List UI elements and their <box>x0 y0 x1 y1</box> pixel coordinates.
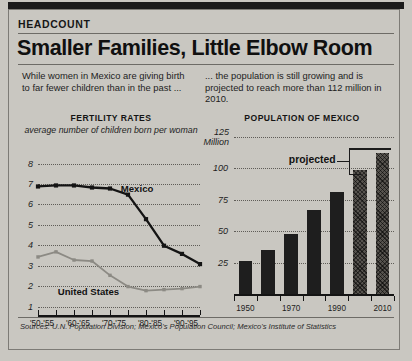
fertility-chart-title: FERTILITY RATES <box>16 113 206 123</box>
projected-bracket-top <box>349 148 392 149</box>
fertility-chart-subtitle: average number of children born per woma… <box>16 125 206 136</box>
x-axis-tick <box>371 296 372 301</box>
data-point <box>54 183 58 187</box>
x-axis-tick <box>146 310 147 315</box>
kicker-label: HEADCOUNT <box>18 18 90 30</box>
data-point <box>90 259 93 262</box>
y-axis-tick-label: 50 <box>200 226 228 236</box>
x-axis-tick <box>110 310 111 315</box>
population-chart-title: POPULATION OF MEXICO <box>204 113 400 123</box>
y-axis-tick-label: 125 Million <box>198 127 229 147</box>
data-point <box>180 251 184 255</box>
data-point <box>162 287 165 290</box>
x-axis-tick <box>348 296 349 301</box>
x-axis-tick-label: 1990 <box>328 304 346 313</box>
series-label-mexico: Mexico <box>121 183 154 194</box>
fertility-plot-area: 87654321MexicoUnited States'50-'55'60-'6… <box>16 136 206 313</box>
bar-projected <box>376 153 390 294</box>
headline-divider <box>18 64 394 65</box>
x-axis-tick <box>56 310 57 315</box>
y-axis-tick-label: 100 <box>200 163 228 173</box>
x-axis-tick <box>38 310 39 315</box>
x-axis-tick <box>325 296 326 301</box>
x-axis-tick <box>200 310 201 315</box>
data-point <box>180 286 183 289</box>
x-axis-tick-label: 2010 <box>373 304 391 313</box>
data-point <box>144 217 148 221</box>
x-axis-tick <box>234 296 235 301</box>
gridline <box>234 137 394 138</box>
population-plot-area: 125 Million100755025projected19501970199… <box>204 123 400 314</box>
bar-actual <box>261 250 275 294</box>
data-point <box>36 255 39 258</box>
data-point <box>54 250 57 253</box>
deck-text-right: ... the population is still growing and … <box>205 70 390 105</box>
data-point <box>72 183 76 187</box>
data-point <box>144 288 147 291</box>
x-axis-tick <box>128 310 129 315</box>
x-axis-tick <box>280 296 281 301</box>
data-point <box>126 284 129 287</box>
projected-bracket-bottom <box>349 174 361 175</box>
data-point <box>108 186 112 190</box>
page-title: Smaller Families, Little Elbow Room <box>17 36 397 60</box>
population-panel: POPULATION OF MEXICO 125 Million10075502… <box>204 113 400 314</box>
x-axis-tick <box>182 310 183 315</box>
data-point <box>108 273 111 276</box>
data-point <box>198 284 201 287</box>
data-point <box>162 243 166 247</box>
x-axis-tick-label: 1950 <box>236 304 254 313</box>
bar-actual <box>330 192 344 294</box>
sources-note: Sources: U.N. Population Division; Mexic… <box>20 322 392 331</box>
top-rule-bar <box>8 2 404 9</box>
data-point <box>72 258 75 261</box>
series-label-united-states: United States <box>58 286 119 297</box>
fertility-rates-panel: FERTILITY RATES average number of childr… <box>16 113 206 313</box>
projected-leader-line <box>337 161 349 162</box>
x-axis-tick-label: 1970 <box>282 304 300 313</box>
x-axis-tick <box>74 310 75 315</box>
x-axis-tick <box>257 296 258 301</box>
projected-annotation-label: projected <box>289 154 336 165</box>
data-point <box>36 184 40 188</box>
data-point <box>90 185 94 189</box>
y-axis-tick-label: 75 <box>200 195 228 205</box>
x-axis-tick <box>394 296 395 301</box>
x-axis-tick <box>92 310 93 315</box>
line-series-united-states <box>38 251 200 290</box>
x-axis-tick <box>303 296 304 301</box>
bar-projected <box>353 170 367 294</box>
x-axis-line <box>234 294 394 296</box>
x-axis-tick <box>164 310 165 315</box>
bar-actual <box>307 210 321 294</box>
infographic-page: HEADCOUNT Smaller Families, Little Elbow… <box>0 0 412 361</box>
bar-actual <box>239 261 253 294</box>
line-series-mexico <box>38 185 200 264</box>
gridline <box>234 200 394 201</box>
sources-divider <box>18 317 394 318</box>
kicker-divider <box>18 33 394 34</box>
deck-text-left: While women in Mexico are giving birth t… <box>22 70 190 93</box>
bar-actual <box>284 234 298 294</box>
gridline <box>234 168 394 169</box>
projected-bracket-left <box>349 148 350 173</box>
y-axis-tick-label: 25 <box>200 258 228 268</box>
